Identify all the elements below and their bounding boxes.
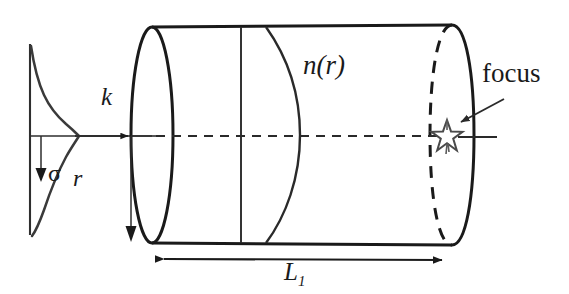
index-profile-curve [266, 27, 300, 243]
diagram-svg [0, 0, 569, 294]
radius-label: r [73, 166, 82, 190]
wavevector-label: k [101, 84, 112, 109]
arrow-down-icon [126, 226, 137, 242]
length-label-subscript: 1 [298, 273, 306, 289]
sigma-indicator [36, 136, 47, 182]
arrow-pointer-icon [461, 99, 504, 122]
gaussian-profile-group [30, 44, 92, 236]
length-label-base: L [284, 258, 298, 285]
length-label: L1 [284, 259, 305, 289]
star-icon [432, 120, 463, 154]
arrow-down-icon [36, 168, 47, 182]
radius-indicator [126, 136, 153, 242]
index-profile-label: n(r) [303, 52, 345, 79]
gaussian-curve [31, 46, 79, 236]
cylinder-top-edge [152, 25, 452, 27]
sigma-label: σ [48, 161, 61, 185]
figure-canvas: k σ r n(r) focus L1 [0, 0, 569, 294]
cylinder-front-face [131, 27, 173, 243]
cylinder-bottom-edge [152, 243, 452, 245]
focus-label: focus [482, 60, 540, 87]
